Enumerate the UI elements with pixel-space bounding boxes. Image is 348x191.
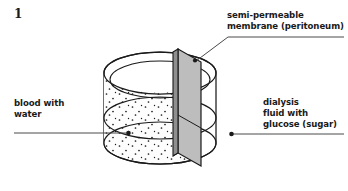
diagram-page: 1 semi-permeable membrane (peritoneum) b… — [0, 0, 348, 191]
leader-dialysis — [229, 132, 344, 137]
membrane-panel-edge — [173, 49, 178, 156]
semi-permeable-membrane — [173, 49, 201, 166]
label-semi-permeable-membrane: semi-permeable membrane (peritoneum) — [227, 10, 345, 32]
label-dialysis-fluid: dialysis fluid with glucose (sugar) — [263, 97, 347, 131]
dot-marker-icon — [126, 131, 131, 136]
membrane-panel-face — [178, 49, 201, 166]
dot-marker-icon — [193, 58, 197, 62]
label-blood-with-water: blood with water — [14, 98, 80, 120]
dot-marker-icon — [229, 132, 234, 137]
figure-number: 1 — [14, 7, 22, 21]
leader-membrane — [193, 37, 344, 63]
